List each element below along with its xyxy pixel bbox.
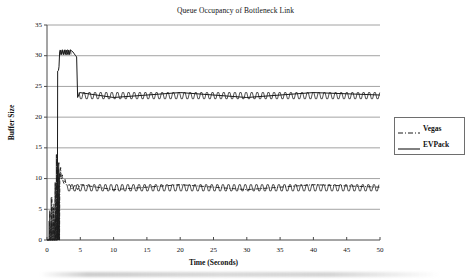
y-tick-label: 15: [9, 143, 42, 151]
x-tick-label: 0: [33, 246, 61, 254]
x-tick-label: 50: [366, 246, 394, 254]
y-tick-label: 35: [9, 21, 42, 29]
gridlines: [47, 25, 380, 209]
tick-marks: [44, 25, 380, 240]
x-tick-label: 15: [133, 246, 161, 254]
y-tick-label: 5: [9, 205, 42, 213]
solid-line-icon: [397, 140, 421, 150]
x-tick-label: 5: [66, 246, 94, 254]
legend-label-vegas: Vegas: [421, 124, 441, 133]
x-tick-label: 35: [266, 246, 294, 254]
axis-lines: [47, 25, 380, 240]
series-line-evpack: [47, 50, 380, 240]
y-tick-label: 10: [9, 174, 42, 182]
x-tick-label: 40: [299, 246, 327, 254]
x-tick-label: 20: [166, 246, 194, 254]
x-tick-label: 45: [333, 246, 361, 254]
legend-item-vegas[interactable]: Vegas: [397, 121, 464, 136]
series-ripple-evpack: [79, 93, 380, 99]
scan-artifact: [40, 272, 440, 277]
dash-dot-line-icon: [397, 124, 421, 134]
y-tick-label: 0: [9, 236, 42, 244]
y-tick-label: 30: [9, 51, 42, 59]
y-tick-label: 25: [9, 82, 42, 90]
series-line-vegas: [47, 155, 380, 240]
x-tick-label: 10: [100, 246, 128, 254]
chart-legend: Vegas EVPack: [394, 117, 465, 155]
x-tick-label: 30: [233, 246, 261, 254]
x-tick-label: 25: [200, 246, 228, 254]
legend-item-evpack[interactable]: EVPack: [397, 137, 464, 152]
chart-figure: Queue Occupancy of Bottleneck Link Buffe…: [0, 0, 471, 280]
y-tick-label: 20: [9, 113, 42, 121]
legend-label-evpack: EVPack: [421, 140, 449, 149]
series-layer: [47, 50, 380, 240]
